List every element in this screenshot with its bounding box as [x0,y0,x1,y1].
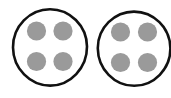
diagram-canvas: Two circles each containing four dots [0,0,171,98]
left-circle-outline[interactable] [13,9,87,85]
left-circle-dot-bottom-left[interactable] [27,52,46,71]
right-circle-outline[interactable] [98,12,171,86]
right-circle-group[interactable] [98,12,171,86]
left-circle-dot-top-right[interactable] [53,21,72,40]
left-circle-dot-bottom-right[interactable] [53,52,72,71]
right-circle-dot-bottom-right[interactable] [138,53,157,72]
left-circle-dot-top-left[interactable] [27,21,46,40]
right-circle-dot-top-left[interactable] [111,22,130,41]
right-circle-dot-bottom-left[interactable] [111,53,130,72]
diagram-svg [0,0,171,98]
left-circle-group[interactable] [13,9,87,85]
right-circle-dot-top-right[interactable] [138,22,157,41]
